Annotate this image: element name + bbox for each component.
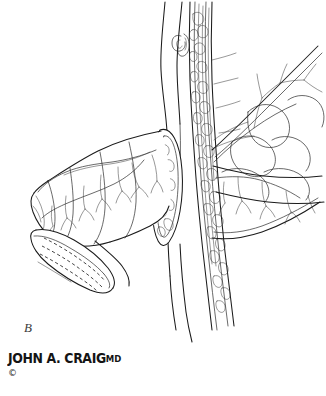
- artist-name-line: JOHN A. CRAIGMD: [8, 352, 121, 365]
- panel-label: B: [24, 320, 32, 336]
- illustration-canvas: B JOHN A. CRAIGMD ©: [0, 0, 326, 396]
- anatomy-line-drawing: [0, 0, 326, 396]
- artist-credit: JOHN A. CRAIGMD ©: [8, 352, 121, 378]
- artist-suffix: MD: [106, 353, 122, 364]
- artist-name: JOHN A. CRAIG: [8, 350, 106, 366]
- copyright-mark: ©: [8, 369, 121, 378]
